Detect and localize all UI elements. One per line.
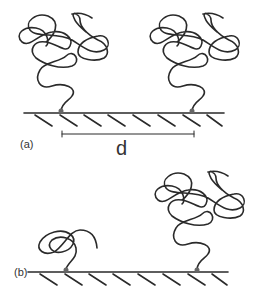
surface-a <box>24 113 224 126</box>
distance-label: d <box>116 137 127 160</box>
graft-point-a-right <box>190 109 195 114</box>
polymer-coil-a-left <box>19 13 108 111</box>
panel-label-a: (a) <box>20 138 33 150</box>
polymer-coil-a-right <box>150 13 239 111</box>
graft-point-a-left <box>59 109 64 114</box>
graft-point-b-small <box>64 268 69 273</box>
graft-point-b-large <box>195 268 200 273</box>
panel-label-b: (b) <box>14 266 27 278</box>
polymer-coil-b-large <box>155 171 244 269</box>
surface-b <box>28 272 228 285</box>
distance-bar <box>62 131 194 137</box>
polymer-coil-b-small <box>39 230 97 269</box>
